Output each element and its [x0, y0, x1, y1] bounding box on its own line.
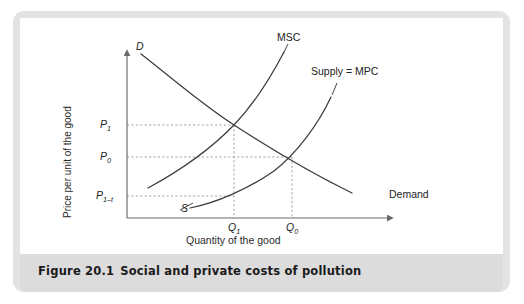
figure-caption-band: Figure 20.1Social and private costs of p…: [20, 254, 503, 292]
y-axis-title-text: Price per unit of the good: [62, 106, 73, 218]
y-tick-label-p0: P0: [100, 151, 111, 164]
supply-curve-start-label: S: [181, 203, 188, 214]
x-axis-title: Quantity of the good: [186, 234, 281, 246]
x-tick-label-q1: Q1: [228, 222, 240, 235]
plot-panel: [20, 18, 503, 254]
y-tick-label-p1: P1: [100, 119, 111, 132]
figure-container: Price per unit of the good Quantity of t…: [0, 0, 524, 304]
y-tick-label-p1t: P1–t: [96, 190, 113, 203]
figure-caption-number: Figure 20.1: [38, 264, 114, 278]
demand-curve-start-label: D: [136, 41, 144, 52]
mpc-curve-label: Supply = MPC: [311, 66, 378, 77]
y-axis-title: Price per unit of the good: [62, 0, 73, 78]
figure-caption: Figure 20.1Social and private costs of p…: [38, 264, 361, 278]
x-tick-label-q0: Q0: [286, 222, 298, 235]
msc-curve-label: MSC: [277, 32, 300, 43]
figure-caption-title: Social and private costs of pollution: [120, 264, 361, 278]
demand-curve-end-label: Demand: [389, 189, 429, 200]
